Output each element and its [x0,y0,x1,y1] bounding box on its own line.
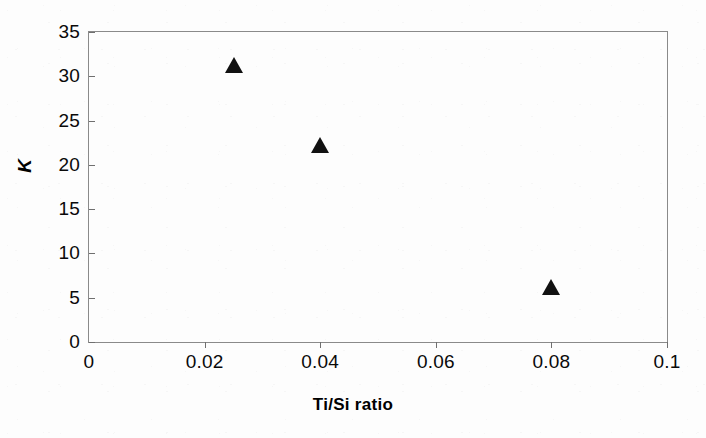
y-axis-title: K [14,159,36,173]
figure-container: 0510152025303500.020.040.060.080.1 K Ti/… [0,0,706,438]
y-axis-tick [89,209,95,210]
data-point-marker [542,279,560,295]
x-axis-tick-label: 0.08 [533,351,571,373]
y-axis-tick [89,76,95,77]
x-axis-tick [551,342,552,348]
x-axis-tick-label: 0.06 [417,351,455,373]
x-axis-tick-label: 0.02 [186,351,224,373]
y-axis-tick [89,342,95,343]
y-axis-tick-label: 30 [58,65,80,87]
y-axis-tick-label: 10 [58,242,80,264]
y-axis-tick-label: 25 [58,110,80,132]
y-axis-tick [89,121,95,122]
y-axis-tick-label: 35 [58,21,80,43]
x-axis-tick-label: 0.1 [653,351,680,373]
y-axis-tick [89,32,95,33]
x-axis-tick [436,342,437,348]
x-axis-title: Ti/Si ratio [0,395,706,415]
y-axis-tick-label: 15 [58,198,80,220]
y-axis-tick [89,165,95,166]
plot-area: 0510152025303500.020.040.060.080.1 [88,31,668,343]
x-axis-tick [205,342,206,348]
y-axis-tick-label: 20 [58,154,80,176]
data-point-marker [225,58,243,74]
x-axis-tick [667,342,668,348]
x-axis-tick-label: 0.04 [301,351,339,373]
y-axis-tick-label: 5 [69,287,80,309]
y-axis-tick [89,253,95,254]
x-axis-tick-label: 0 [84,351,95,373]
x-axis-tick [320,342,321,348]
data-point-marker [311,137,329,153]
y-axis-tick [89,298,95,299]
y-axis-tick-label: 0 [69,331,80,353]
